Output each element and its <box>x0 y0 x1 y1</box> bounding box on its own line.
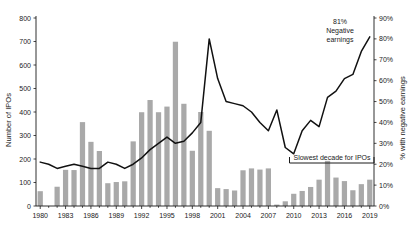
bar <box>63 170 68 206</box>
bar <box>97 151 102 206</box>
y-axis-right: 0%10%20%30%40%50%60%70%80%90% <box>374 15 393 210</box>
y-tick-label: 100 <box>19 179 31 186</box>
callout-line-2: Negative <box>326 27 354 35</box>
x-tick-label: 1998 <box>185 212 201 219</box>
x-tick-label: 1989 <box>108 212 124 219</box>
bar <box>156 112 161 206</box>
x-tick-label: 1983 <box>58 212 74 219</box>
y-axis-left-title: Number of IPOs <box>4 93 13 147</box>
y2-tick-label: 20% <box>379 161 393 168</box>
bar <box>71 170 76 206</box>
bar <box>173 42 178 206</box>
x-tick-label: 1992 <box>134 212 150 219</box>
bar <box>114 182 119 206</box>
x-tick-label: 2016 <box>337 212 353 219</box>
bar <box>224 189 229 206</box>
bar <box>215 188 220 206</box>
bar <box>190 151 195 206</box>
bar <box>122 181 127 206</box>
y-tick-label: 700 <box>19 38 31 45</box>
x-tick-label: 2007 <box>261 212 277 219</box>
bar <box>164 107 169 206</box>
bar <box>308 187 313 206</box>
callout-line-3: earnings <box>327 36 354 44</box>
bar <box>105 183 110 206</box>
bar <box>207 131 212 206</box>
bar <box>291 194 296 206</box>
slowest-decade-label: Slowest decade for IPOs <box>294 154 372 161</box>
bar <box>55 187 60 206</box>
y2-tick-label: 60% <box>379 77 393 84</box>
callout-line-1: 81% <box>333 18 347 25</box>
y2-tick-label: 50% <box>379 98 393 105</box>
x-axis: 1980198319861989199219951998200120042007… <box>32 206 377 219</box>
bar <box>367 180 372 206</box>
y2-tick-label: 70% <box>379 56 393 63</box>
y-tick-label: 0 <box>27 203 31 210</box>
y-tick-label: 300 <box>19 132 31 139</box>
y2-tick-label: 0% <box>379 203 389 210</box>
y2-tick-label: 10% <box>379 182 393 189</box>
x-tick-label: 1995 <box>159 212 175 219</box>
bar <box>198 112 203 206</box>
bar <box>300 191 305 206</box>
y2-tick-label: 40% <box>379 119 393 126</box>
chart-svg: 0100200300400500600700800 0%10%20%30%40%… <box>0 0 413 234</box>
bar <box>333 178 338 206</box>
bar <box>240 170 245 206</box>
ipo-chart: 0100200300400500600700800 0%10%20%30%40%… <box>0 0 413 234</box>
y2-tick-label: 30% <box>379 140 393 147</box>
bar <box>342 181 347 206</box>
bar <box>325 161 330 206</box>
bar <box>350 190 355 206</box>
y-axis-right-title: % with negative earnings <box>398 76 407 160</box>
x-tick-label: 1980 <box>32 212 48 219</box>
y2-tick-label: 90% <box>379 15 393 22</box>
bar <box>249 168 254 206</box>
bar <box>80 122 85 206</box>
y-tick-label: 800 <box>19 15 31 22</box>
annotations: 81%NegativeearningsSlowest decade for IP… <box>290 18 375 163</box>
bar-series <box>38 42 373 206</box>
x-tick-label: 2001 <box>210 212 226 219</box>
bar <box>359 184 364 206</box>
x-tick-label: 1986 <box>83 212 99 219</box>
x-tick-label: 2010 <box>286 212 302 219</box>
x-tick-label: 2013 <box>311 212 327 219</box>
bar <box>266 168 271 206</box>
bar <box>257 170 262 206</box>
bar <box>181 104 186 206</box>
bar <box>131 141 136 206</box>
y-tick-label: 400 <box>19 109 31 116</box>
bar <box>316 180 321 206</box>
bar <box>283 201 288 206</box>
bar <box>232 190 237 206</box>
y-axis-left: 0100200300400500600700800 <box>19 15 36 210</box>
y-tick-label: 600 <box>19 62 31 69</box>
x-tick-label: 2004 <box>235 212 251 219</box>
bar <box>88 142 93 206</box>
x-tick-label: 2019 <box>362 212 378 219</box>
bar <box>147 100 152 206</box>
bar <box>38 191 43 206</box>
y2-tick-label: 80% <box>379 35 393 42</box>
y-tick-label: 500 <box>19 85 31 92</box>
y-tick-label: 200 <box>19 156 31 163</box>
